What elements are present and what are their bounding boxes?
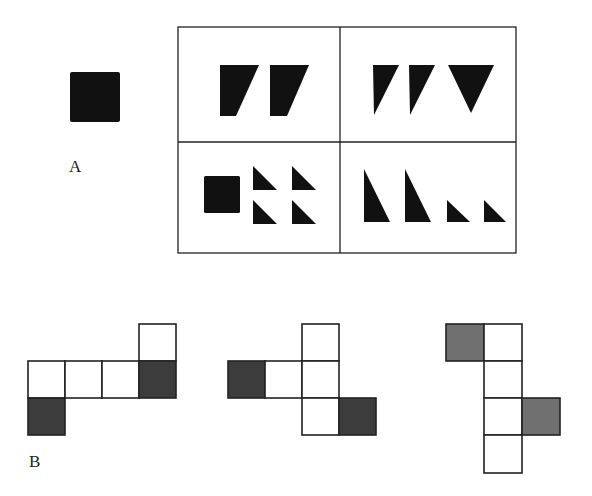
small-triangle-shape <box>253 200 277 224</box>
net-3[interactable] <box>446 324 560 473</box>
shaded-face <box>339 398 376 435</box>
right-triangle-shape <box>373 65 399 115</box>
shaded-face <box>522 398 560 435</box>
part-b-label: B <box>29 452 40 472</box>
shaded-face <box>446 324 484 361</box>
option-bottom-left[interactable] <box>204 166 316 224</box>
shaded-face <box>28 398 65 435</box>
trapezoid-shape <box>220 65 259 116</box>
option-top-right[interactable] <box>373 65 494 115</box>
shaded-face <box>139 361 176 398</box>
small-triangle-shape <box>253 166 277 190</box>
net-1[interactable] <box>28 324 176 435</box>
reference-square <box>70 72 120 122</box>
net-2[interactable] <box>228 324 376 435</box>
part-a-label: A <box>69 157 81 177</box>
option-top-left[interactable] <box>220 65 309 116</box>
small-triangle-shape <box>484 200 506 222</box>
small-triangle-shape <box>292 200 316 224</box>
right-triangle-shape <box>409 65 435 115</box>
small-triangle-shape <box>447 200 470 222</box>
shaded-face <box>228 361 265 398</box>
tall-triangle-shape <box>405 169 431 222</box>
trapezoid-shape <box>270 65 309 116</box>
puzzle-figure <box>0 0 592 496</box>
small-square-shape <box>204 176 240 213</box>
small-triangle-shape <box>292 166 316 190</box>
option-bottom-right[interactable] <box>364 169 506 222</box>
inverted-triangle-shape <box>448 65 494 113</box>
tall-triangle-shape <box>364 169 390 222</box>
